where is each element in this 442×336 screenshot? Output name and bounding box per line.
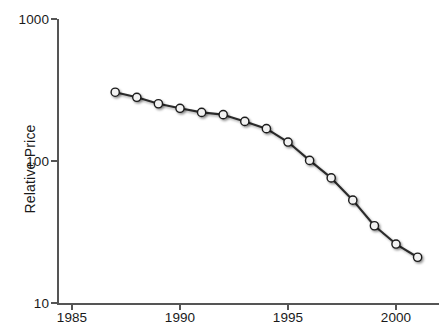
data-point-marker — [176, 104, 184, 112]
series-markers — [111, 88, 422, 261]
plot-area — [0, 0, 442, 336]
data-point-marker — [414, 253, 422, 261]
data-point-marker — [133, 93, 141, 101]
relative-price-line-chart: Relative Price 100010010 198519901995200… — [0, 0, 442, 336]
data-point-marker — [349, 196, 357, 204]
data-point-marker — [111, 88, 119, 96]
data-point-marker — [392, 240, 400, 248]
data-point-marker — [241, 117, 249, 125]
data-point-marker — [198, 108, 206, 116]
data-point-marker — [219, 111, 227, 119]
data-point-marker — [327, 174, 335, 182]
data-point-marker — [262, 125, 270, 133]
data-point-marker — [370, 222, 378, 230]
data-point-marker — [154, 100, 162, 108]
data-point-marker — [306, 156, 314, 164]
series-line — [115, 92, 417, 257]
data-point-marker — [284, 138, 292, 146]
